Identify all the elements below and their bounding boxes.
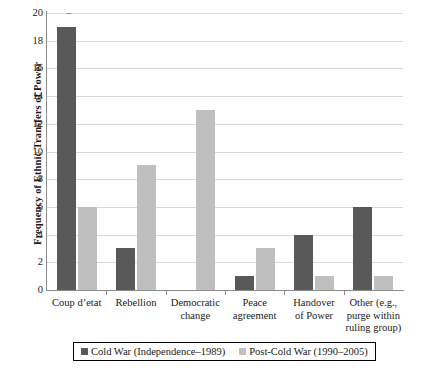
x-axis-label-line: Rebellion — [106, 297, 165, 310]
bars-layer — [47, 13, 403, 290]
y-tick-label: 4 — [23, 229, 43, 240]
legend-item: Post-Cold War (1990–2005) — [239, 346, 368, 357]
bar-group — [284, 13, 343, 290]
y-tick-mark — [67, 290, 71, 291]
y-tick-label: 16 — [23, 63, 43, 74]
x-tick-mark — [225, 290, 226, 295]
chart-legend: Cold War (Independence–1989)Post-Cold Wa… — [73, 342, 376, 361]
x-axis-label: Rebellion — [106, 297, 165, 310]
x-axis-label-line: Peace — [225, 297, 284, 310]
x-axis-label: Democraticchange — [166, 297, 225, 322]
x-axis-label: Peaceagreement — [225, 297, 284, 322]
bar — [196, 110, 215, 290]
bar — [235, 276, 254, 290]
bar-group — [225, 13, 284, 290]
bar-group — [106, 13, 165, 290]
x-axis-label-line: Democratic — [166, 297, 225, 310]
bar — [294, 235, 313, 290]
x-axis-label-line: Handover — [284, 297, 343, 310]
x-axis-label: Other (e.g.,purge withinruling group) — [344, 297, 403, 335]
x-tick-mark — [344, 290, 345, 295]
y-axis-ticks: 20181614121086420 — [21, 13, 43, 290]
bar-group — [166, 13, 225, 290]
x-tick-mark — [166, 290, 167, 295]
y-tick-label: 14 — [23, 91, 43, 102]
bar — [78, 207, 97, 290]
bar — [116, 248, 135, 290]
legend-swatch — [81, 348, 88, 355]
x-axis-label-line: Coup d’etat — [47, 297, 106, 310]
bar-chart: Frequency of Ethnic Transfers of Power 2… — [0, 0, 423, 370]
y-tick-label: 0 — [23, 285, 43, 296]
x-axis-label-line: ruling group) — [344, 322, 403, 335]
x-axis-labels: Coup d’etatRebellionDemocraticchangePeac… — [47, 297, 403, 343]
x-axis-label-line: Other (e.g., — [344, 297, 403, 310]
y-tick-label: 20 — [23, 8, 43, 19]
bar — [374, 276, 393, 290]
y-tick-label: 10 — [23, 146, 43, 157]
y-tick-label: 18 — [23, 35, 43, 46]
bar-group — [344, 13, 403, 290]
x-tick-mark — [106, 290, 107, 295]
bar — [57, 27, 76, 290]
x-axis-label-line: of Power — [284, 310, 343, 323]
legend-label: Cold War (Independence–1989) — [91, 346, 225, 357]
legend-item: Cold War (Independence–1989) — [81, 346, 225, 357]
x-tick-mark — [284, 290, 285, 295]
y-tick-label: 2 — [23, 257, 43, 268]
bar — [315, 276, 334, 290]
bar — [256, 248, 275, 290]
bar-group — [47, 13, 106, 290]
bar — [353, 207, 372, 290]
x-axis-label: Coup d’etat — [47, 297, 106, 310]
bar — [137, 165, 156, 290]
legend-swatch — [239, 348, 246, 355]
x-axis-label: Handoverof Power — [284, 297, 343, 322]
x-axis-label-line: agreement — [225, 310, 284, 323]
y-tick-label: 12 — [23, 119, 43, 130]
x-axis-label-line: change — [166, 310, 225, 323]
legend-label: Post-Cold War (1990–2005) — [249, 346, 368, 357]
y-tick-label: 8 — [23, 174, 43, 185]
y-tick-label: 6 — [23, 202, 43, 213]
x-axis-label-line: purge within — [344, 310, 403, 323]
